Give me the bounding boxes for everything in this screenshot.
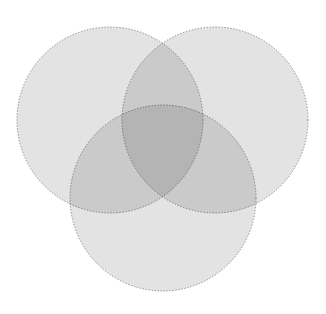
- venn-diagram-figure: [0, 0, 326, 314]
- venn-circle-bottom[interactable]: [70, 105, 256, 291]
- venn-diagram-canvas: [0, 0, 326, 314]
